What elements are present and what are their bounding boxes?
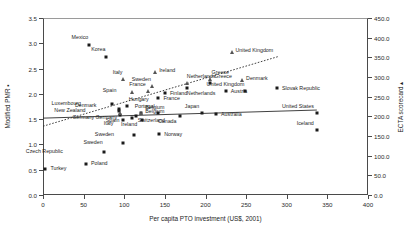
y-axis-left-tick xyxy=(39,119,43,120)
data-point-marker xyxy=(121,142,124,145)
data-point-marker xyxy=(130,90,134,94)
y-axis-left-tick-label: 2.5 xyxy=(28,65,37,72)
data-point-label: France xyxy=(129,82,146,87)
data-point-marker xyxy=(230,50,234,54)
x-axis-tick-label: 400 xyxy=(363,201,373,208)
data-point-marker xyxy=(102,151,105,154)
y-axis-right-tick xyxy=(368,97,372,98)
y-axis-left-tick-label: 3.5 xyxy=(28,15,37,22)
data-point-label: Germany xyxy=(95,115,117,120)
data-point-label: Sweden xyxy=(95,132,114,137)
data-point-label: New Zealand xyxy=(54,108,85,113)
data-point-marker xyxy=(208,77,212,81)
data-point-label: Greece xyxy=(215,75,232,80)
x-axis-tick xyxy=(43,195,44,199)
y-axis-left-title: Modified PMR ▪ xyxy=(2,18,12,195)
data-point-label: Belgium xyxy=(145,109,164,114)
data-point-label: Spain xyxy=(103,89,117,94)
y-axis-right-tick xyxy=(368,175,372,176)
data-point-label: Mexico xyxy=(72,35,89,40)
y-axis-left-tick-label: 0.0 xyxy=(28,192,37,199)
data-point-label: Iceland xyxy=(297,122,314,127)
x-axis-tick-label: 300 xyxy=(282,201,292,208)
data-point-label: Australia xyxy=(221,112,242,117)
data-point-label: Italy xyxy=(104,121,114,126)
data-point-marker xyxy=(105,56,108,59)
x-axis-tick xyxy=(327,195,328,199)
y-axis-left-tick xyxy=(39,144,43,145)
y-axis-right-tick-label: 300.0 xyxy=(374,74,389,81)
data-point-marker xyxy=(315,112,318,115)
y-axis-left-tick xyxy=(39,170,43,171)
data-point-label: Denmark xyxy=(246,76,268,81)
y-axis-right-tick-label: 400.0 xyxy=(374,34,389,41)
y-axis-left-tick-label: 1.5 xyxy=(28,116,37,123)
y-axis-left-tick-label: 0.5 xyxy=(28,166,37,173)
data-point-label: Netherlands xyxy=(187,91,216,96)
y-axis-right-title: ECTA scorecard ▴ xyxy=(395,18,407,195)
y-axis-right-tick-label: 150.0 xyxy=(374,133,389,140)
data-point-marker xyxy=(276,86,279,89)
data-point-marker xyxy=(153,70,157,74)
data-point-marker xyxy=(158,133,161,136)
data-point-label: Hungary xyxy=(129,97,149,102)
data-point-marker xyxy=(244,90,247,93)
data-point-marker xyxy=(146,89,150,93)
data-point-label: Turkey xyxy=(50,166,66,171)
y-axis-right-tick-label: 100.0 xyxy=(374,152,389,159)
y-axis-right-tick-label: 200.0 xyxy=(374,113,389,120)
data-point-label: Norway xyxy=(164,133,182,138)
plot-area: 0.00.51.01.52.02.53.03.50.050.0100.0150.… xyxy=(43,18,368,195)
y-axis-right-tick xyxy=(368,18,372,19)
x-axis-tick xyxy=(368,195,369,199)
data-point-label: Ireland xyxy=(159,68,175,73)
data-point-marker xyxy=(118,111,122,115)
data-point-label: Slovak Republic xyxy=(282,86,320,91)
y-axis-right-tick xyxy=(368,38,372,39)
y-axis-left-tick xyxy=(39,69,43,70)
y-axis-left-tick-label: 1.0 xyxy=(28,141,37,148)
y-axis-right-tick xyxy=(368,116,372,117)
x-axis-tick xyxy=(206,195,207,199)
data-point-label: Italy xyxy=(113,70,123,75)
data-point-marker xyxy=(185,86,188,89)
data-point-label: Korea xyxy=(91,48,105,53)
data-point-label: Canada xyxy=(158,119,177,124)
x-axis-title: Per capita PTO investment (US$, 2001) xyxy=(43,215,368,222)
data-point-label: France xyxy=(163,97,180,102)
x-axis-tick-label: 200 xyxy=(200,201,210,208)
y-axis-left-tick-label: 3.0 xyxy=(28,40,37,47)
y-axis-right-tick xyxy=(368,156,372,157)
x-axis-tick-label: 0 xyxy=(41,201,44,208)
data-point-marker xyxy=(133,133,136,136)
data-point-marker xyxy=(215,113,218,116)
data-point-label: Czech Republic xyxy=(26,149,63,154)
y-axis-right-tick xyxy=(368,77,372,78)
data-point-label: Greece xyxy=(212,70,229,75)
y-axis-left-tick xyxy=(39,94,43,95)
y-axis-right-tick-label: 0.0 xyxy=(374,192,383,199)
data-point-marker xyxy=(163,91,166,94)
data-point-marker xyxy=(131,117,134,120)
y-axis-right-tick xyxy=(368,136,372,137)
y-axis-left-tick xyxy=(39,43,43,44)
y-axis-right-tick xyxy=(368,57,372,58)
x-axis-tick-label: 250 xyxy=(241,201,251,208)
x-axis-tick-label: 150 xyxy=(160,201,170,208)
data-point-marker xyxy=(224,90,227,93)
data-point-marker xyxy=(121,77,125,81)
x-axis-tick xyxy=(287,195,288,199)
x-axis-tick-label: 100 xyxy=(119,201,129,208)
data-point-marker xyxy=(240,78,244,82)
data-point-label: Ireland xyxy=(121,122,137,127)
data-point-label: Poland xyxy=(91,161,108,166)
data-point-marker xyxy=(141,118,144,121)
data-point-label: United Kingdom xyxy=(207,83,245,88)
x-axis-tick-label: 350 xyxy=(322,201,332,208)
data-point-marker xyxy=(139,111,143,115)
scatter-chart: Modified PMR ▪ ECTA scorecard ▴ Per capi… xyxy=(0,0,411,237)
data-point-marker xyxy=(178,115,181,118)
data-point-marker xyxy=(122,118,125,121)
x-axis-tick xyxy=(124,195,125,199)
data-point-marker xyxy=(157,97,160,100)
